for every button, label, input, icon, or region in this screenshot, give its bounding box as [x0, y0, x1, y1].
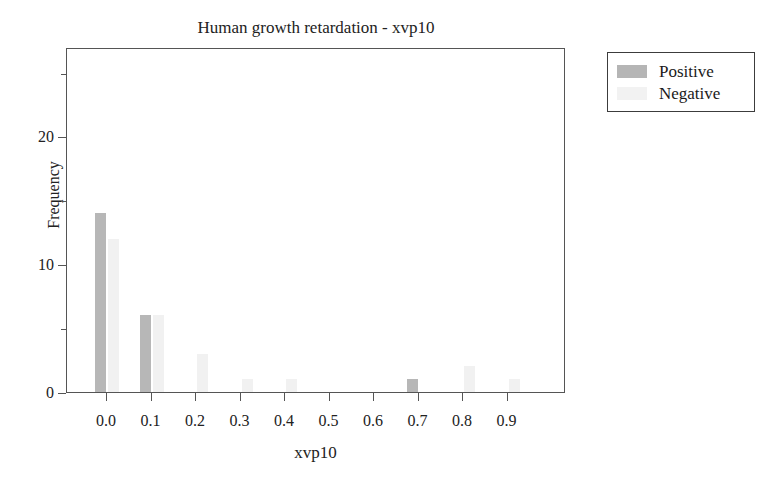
x-tick-0.8: [462, 393, 463, 401]
x-axis-label: xvp10: [66, 443, 565, 463]
chart-legend: PositiveNegative: [607, 52, 755, 112]
y-tick-minor-15: [61, 201, 66, 202]
y-tick-label-20: 20: [8, 129, 54, 145]
x-tick-label-0.3: 0.3: [215, 412, 265, 430]
x-tick-label-0.6: 0.6: [348, 412, 398, 430]
bar-negative-0.8: [464, 366, 475, 392]
x-tick-label-0.5: 0.5: [304, 412, 354, 430]
y-tick-10: [58, 265, 66, 266]
bar-positive-0.7: [407, 379, 418, 392]
bar-positive-0.1: [140, 315, 151, 392]
bar-negative-0.0: [108, 239, 119, 392]
y-tick-label-0: 0: [8, 385, 54, 401]
chart-title: Human growth retardation - xvp10: [66, 18, 566, 38]
x-tick-label-0.2: 0.2: [170, 412, 220, 430]
bar-negative-0.9: [509, 379, 520, 392]
bar-negative-0.1: [153, 315, 164, 392]
bar-negative-0.2: [197, 354, 208, 392]
y-tick-minor-5: [61, 329, 66, 330]
legend-swatch-positive: [617, 65, 647, 78]
x-tick-label-0.4: 0.4: [259, 412, 309, 430]
x-tick-0.3: [240, 393, 241, 401]
x-tick-0.5: [329, 393, 330, 401]
x-tick-0.1: [151, 393, 152, 401]
x-tick-0.4: [284, 393, 285, 401]
x-tick-label-0.9: 0.9: [482, 412, 532, 430]
y-tick-label-10: 10: [8, 257, 54, 273]
y-axis-label: Frequency: [45, 135, 63, 255]
bars-layer: [67, 49, 564, 392]
bar-negative-0.4: [286, 379, 297, 392]
y-tick-0: [58, 393, 66, 394]
x-tick-label-0.8: 0.8: [437, 412, 487, 430]
y-tick-minor-25: [61, 74, 66, 75]
legend-entry-positive: Positive: [617, 60, 754, 82]
x-tick-0.7: [418, 393, 419, 401]
legend-swatch-negative: [617, 87, 647, 100]
chart-figure: Human growth retardation - xvp10 Frequen…: [0, 0, 775, 481]
x-tick-label-0.1: 0.1: [126, 412, 176, 430]
x-tick-0.9: [507, 393, 508, 401]
x-tick-0.6: [373, 393, 374, 401]
bar-positive-0.0: [95, 213, 106, 392]
bar-negative-0.3: [242, 379, 253, 392]
x-tick-label-0.7: 0.7: [393, 412, 443, 430]
legend-label-negative: Negative: [659, 84, 720, 103]
legend-label-positive: Positive: [659, 62, 714, 81]
x-tick-label-0.0: 0.0: [81, 412, 131, 430]
x-tick-0.0: [106, 393, 107, 401]
legend-entry-negative: Negative: [617, 82, 754, 104]
plot-area: [66, 48, 565, 393]
x-tick-0.2: [195, 393, 196, 401]
y-tick-20: [58, 137, 66, 138]
